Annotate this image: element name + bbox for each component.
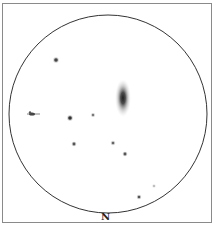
north-label: N [101, 211, 110, 222]
star-icon [92, 114, 94, 116]
star-icon [73, 143, 76, 146]
star-field [53, 57, 156, 199]
galaxy-icon [115, 79, 131, 117]
star-icon [68, 116, 72, 120]
star-icon [124, 153, 127, 156]
star-icon [138, 196, 141, 199]
eyepiece-sketch [0, 0, 216, 230]
star-icon [54, 58, 58, 62]
star-icon [112, 142, 115, 145]
star-icon [153, 185, 155, 187]
double-star-icon [27, 111, 40, 115]
